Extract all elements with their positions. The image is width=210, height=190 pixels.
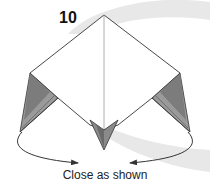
origami-diagram: 10 Close as shown [0, 0, 210, 190]
step-number: 10 [59, 9, 77, 27]
caption: Close as shown [0, 168, 210, 182]
left-arrow [18, 132, 78, 163]
square-model-top [30, 15, 180, 130]
diagram-svg [0, 0, 210, 190]
